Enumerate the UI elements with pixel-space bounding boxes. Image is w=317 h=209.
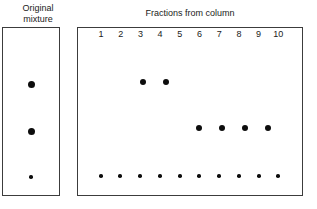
spot-baseline-row-col-4 [158, 174, 162, 178]
column-label-6: 6 [192, 29, 208, 39]
fractions-panel [77, 27, 303, 196]
spot-baseline-row-col-5 [178, 174, 182, 178]
original-spot-middle [28, 128, 35, 135]
column-label-2: 2 [113, 29, 129, 39]
spot-middle-band-row-col-6 [196, 125, 202, 131]
original-spot-bottom [29, 175, 33, 179]
spot-upper-band-row-col-4 [163, 79, 169, 85]
spot-baseline-row-col-3 [138, 174, 142, 178]
spot-baseline-row-col-7 [217, 174, 221, 178]
original-mixture-label: Original mixture [10, 3, 66, 25]
column-label-1: 1 [93, 29, 109, 39]
column-label-10: 10 [270, 29, 286, 39]
spot-baseline-row-col-10 [276, 174, 280, 178]
chromatography-figure: Original mixture Fractions from column 1… [0, 0, 317, 209]
spot-baseline-row-col-8 [237, 174, 241, 178]
spot-upper-band-row-col-3 [140, 79, 146, 85]
column-label-3: 3 [132, 29, 148, 39]
column-label-4: 4 [152, 29, 168, 39]
spot-baseline-row-col-1 [99, 174, 103, 178]
column-label-5: 5 [172, 29, 188, 39]
original-spot-top [28, 81, 35, 88]
spot-middle-band-row-col-8 [242, 125, 248, 131]
spot-baseline-row-col-6 [197, 174, 201, 178]
column-label-7: 7 [211, 29, 227, 39]
spot-baseline-row-col-2 [118, 174, 122, 178]
column-label-9: 9 [251, 29, 267, 39]
column-label-8: 8 [231, 29, 247, 39]
spot-middle-band-row-col-7 [219, 125, 225, 131]
fractions-title: Fractions from column [120, 8, 260, 19]
spot-baseline-row-col-9 [257, 174, 261, 178]
original-mixture-panel [2, 27, 60, 196]
spot-middle-band-row-col-9 [265, 125, 271, 131]
